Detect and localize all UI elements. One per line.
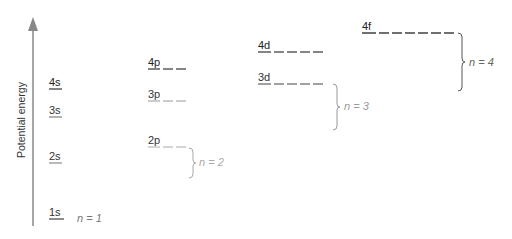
shell-n1: n = 1 <box>77 212 102 224</box>
level-3s: 3s <box>49 104 61 116</box>
level-3d: 3d <box>258 71 270 83</box>
shell-n4: n = 4 <box>469 56 494 68</box>
level-4f: 4f <box>362 20 371 32</box>
energy-diagram <box>0 0 512 239</box>
level-1s: 1s <box>49 206 61 218</box>
shell-n2: n = 2 <box>199 156 224 168</box>
level-4s: 4s <box>49 76 61 88</box>
brace-n4 <box>458 33 465 91</box>
shell-n3: n = 3 <box>344 100 369 112</box>
brace-n2 <box>189 148 196 178</box>
energy-axis-arrow <box>28 17 38 226</box>
level-4d: 4d <box>258 39 270 51</box>
brace-n3 <box>333 84 340 130</box>
axis-label: Potential energy <box>15 82 27 158</box>
level-2s: 2s <box>49 150 61 162</box>
level-4p: 4p <box>148 56 160 68</box>
level-2p: 2p <box>148 134 160 146</box>
level-3p: 3p <box>148 88 160 100</box>
